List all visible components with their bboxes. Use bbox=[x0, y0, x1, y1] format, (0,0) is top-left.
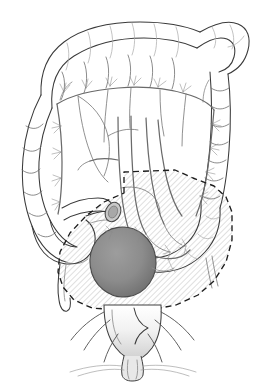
transverse-colon bbox=[41, 22, 200, 108]
splenic-flexure bbox=[197, 22, 249, 74]
transverse-haustra bbox=[66, 23, 179, 70]
rectum-body bbox=[104, 305, 161, 360]
rectum bbox=[104, 305, 161, 360]
transverse-haustra-lower bbox=[61, 55, 175, 100]
splenic-haustra bbox=[212, 25, 244, 49]
colon-resection-figure bbox=[0, 0, 259, 384]
anal-canal bbox=[122, 356, 144, 381]
anatomy-illustration bbox=[0, 0, 259, 384]
